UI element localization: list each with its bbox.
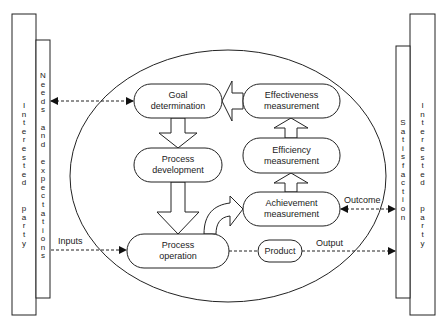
product-node: Product: [258, 240, 302, 262]
achievement-measurement-node: Achievement measurement: [243, 192, 340, 226]
outcome-label: Outcome: [344, 195, 381, 206]
right-interested-party-label: I n t e r e s t e d p a r t y: [410, 102, 435, 248]
development-line1: Process: [162, 154, 195, 165]
effectiveness-line2: measurement: [264, 101, 319, 112]
efficiency-line2: measurement: [264, 156, 319, 167]
arrow-development-to-operation: [157, 182, 199, 234]
efficiency-measurement-node: Efficiency measurement: [243, 138, 340, 173]
arrow-effectiveness-to-goal: [222, 81, 243, 121]
left-interested-party-label: I n t e r e s t e d p a r t y: [12, 102, 36, 248]
arrow-goal-to-development: [159, 118, 197, 148]
needs-expectations-label: N e e d s a n d e x p e c t a t i o n s: [36, 72, 50, 261]
operation-line1: Process: [162, 240, 195, 251]
product-label: Product: [264, 246, 295, 257]
achievement-line2: measurement: [264, 209, 319, 220]
arrow-achievement-to-efficiency: [274, 173, 308, 192]
development-line2: development: [152, 165, 204, 176]
efficiency-line1: Efficiency: [272, 145, 310, 156]
arrow-operation-to-achievement: [204, 196, 243, 234]
goal-line2: determination: [151, 101, 206, 112]
effectiveness-measurement-node: Effectiveness measurement: [243, 84, 340, 118]
goal-determination-node: Goal determination: [134, 84, 222, 118]
process-development-node: Process development: [134, 148, 222, 182]
inputs-label: Inputs: [58, 236, 83, 247]
process-operation-node: Process operation: [127, 234, 229, 268]
achievement-line1: Achievement: [265, 198, 317, 209]
effectiveness-line1: Effectiveness: [265, 90, 318, 101]
satisfaction-label: S a t i s f a c t i o n: [396, 119, 410, 222]
operation-line2: operation: [159, 251, 197, 262]
diagram-canvas: [0, 0, 445, 325]
arrow-efficiency-to-effectiveness: [274, 118, 308, 138]
output-label: Output: [316, 238, 343, 249]
goal-line1: Goal: [168, 90, 187, 101]
